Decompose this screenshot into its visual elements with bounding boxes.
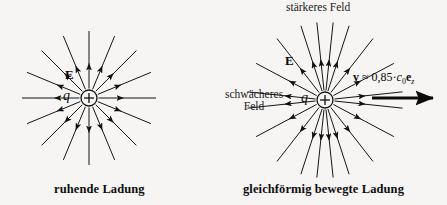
weaker-field-label: schwächeres Feld [225,88,283,112]
field-symbol-right: E [285,53,294,69]
stronger-field-label: stärkeres Feld [286,1,350,13]
left-charge [81,90,97,106]
velocity-vector-symbol: v [353,70,359,84]
velocity-coefficient: 0,85 [372,70,393,84]
weaker-field-label-line1: schwächeres [225,88,283,100]
unit-vector-subscript: z [411,77,414,86]
weaker-field-label-line2: Feld [225,100,283,112]
right-panel-caption: gleichförmig bewegte Ladung [243,182,404,197]
velocity-formula: v ≈ 0,85·c0ez [353,70,414,86]
velocity-relation: ≈ [362,70,369,84]
left-panel-caption: ruhende Ladung [54,182,145,197]
figure-canvas: E q E q stärkeres Feld schwächeres Feld … [0,0,447,205]
charge-symbol-left: q [63,88,70,104]
field-symbol-left: E [65,67,74,83]
charge-symbol-right: q [301,90,308,106]
right-charge [317,92,333,108]
